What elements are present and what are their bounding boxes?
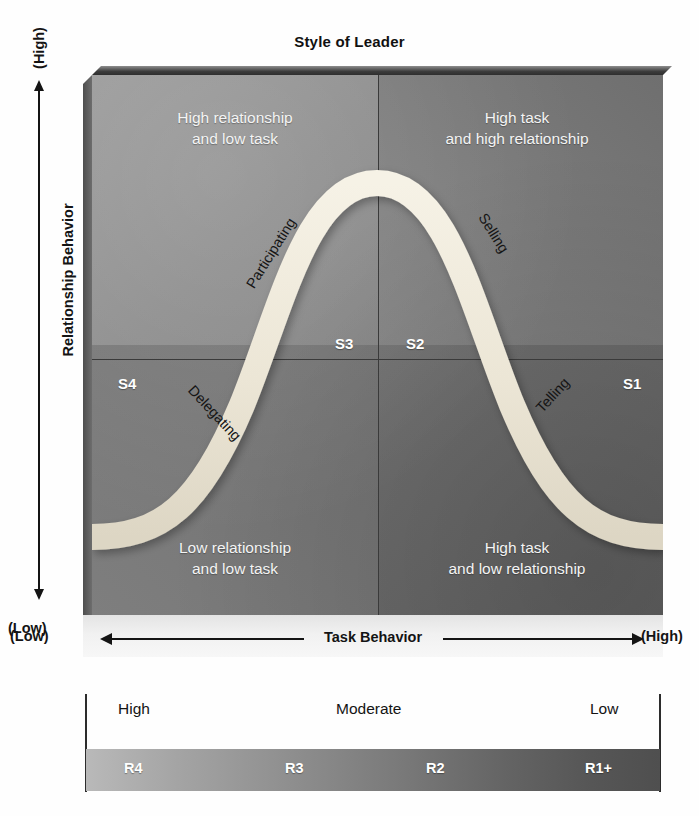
readiness-level-r3: R3 <box>285 760 304 776</box>
quadrant-text-line1: High relationship <box>110 107 360 128</box>
bell-curve-band <box>92 75 663 615</box>
style-label-s2: S2 <box>406 335 424 352</box>
horizontal-axis: Task Behavior <box>83 629 663 649</box>
horizontal-axis-arrow-right <box>443 638 633 640</box>
style-label-s4: S4 <box>118 375 136 392</box>
style-label-s3: S3 <box>335 335 353 352</box>
quadrant-text-line1: High task <box>392 537 642 558</box>
grid-top-bevel <box>92 66 672 75</box>
quadrant-text-line2: and low task <box>110 128 360 149</box>
situational-leadership-figure: Style of Leader (High) Relationship Beha… <box>0 0 699 816</box>
paper-background <box>0 0 86 816</box>
quadrant-text-line2: and low relationship <box>392 558 642 579</box>
quadrant-text-line1: Low relationship <box>110 537 360 558</box>
style-label-s1: S1 <box>623 375 641 392</box>
readiness-header-moderate: Moderate <box>336 700 401 718</box>
readiness-header-low: Low <box>590 700 618 718</box>
readiness-level-r4: R4 <box>124 760 143 776</box>
readiness-scale: High Moderate Low R4 R3 R2 R1+ <box>85 694 661 792</box>
grid-face: Delegating Participating Selling Telling… <box>92 75 663 615</box>
quadrant-text-top-right: High task and high relationship <box>392 107 642 149</box>
leadership-grid: Delegating Participating Selling Telling… <box>83 66 663 618</box>
readiness-level-r1p: R1+ <box>585 760 612 776</box>
quadrant-text-line2: and high relationship <box>392 128 642 149</box>
grid-left-bevel <box>83 75 92 624</box>
readiness-headers: High Moderate Low <box>85 694 661 749</box>
readiness-level-r2: R2 <box>426 760 445 776</box>
quadrant-text-top-left: High relationship and low task <box>110 107 360 149</box>
vertical-axis-high-label: (High) <box>31 27 47 69</box>
horizontal-axis-title: Task Behavior <box>308 629 438 645</box>
horizontal-axis-arrow-left <box>111 638 304 640</box>
readiness-header-high: High <box>118 700 150 718</box>
vertical-axis-arrow <box>38 90 40 590</box>
horizontal-axis-low-label: (Low) <box>10 628 49 644</box>
vertical-axis-title: Relationship Behavior <box>60 190 76 370</box>
quadrant-text-bottom-right: High task and low relationship <box>392 537 642 579</box>
quadrant-text-line1: High task <box>392 107 642 128</box>
quadrant-text-bottom-left: Low relationship and low task <box>110 537 360 579</box>
figure-title: Style of Leader <box>0 33 699 50</box>
quadrant-text-line2: and low task <box>110 558 360 579</box>
readiness-gradient-bar: R4 R3 R2 R1+ <box>86 749 660 791</box>
